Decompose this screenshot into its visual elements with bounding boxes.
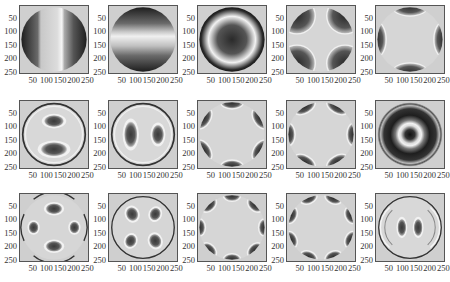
subplot-1: 5010015020025050100150200250: [19, 5, 89, 74]
y-tick-label: 150: [271, 229, 284, 238]
x-tick-label: 100: [218, 76, 231, 85]
y-tick-label: 100: [93, 215, 106, 224]
x-tick-label: 150: [232, 76, 245, 85]
x-tick-label: 150: [410, 76, 423, 85]
x-tick-label: 50: [295, 264, 304, 273]
subplot-5: 5010015020025050100150200250: [375, 5, 445, 74]
y-tick-label: 100: [271, 215, 284, 224]
x-tick-label: 200: [423, 76, 436, 85]
x-tick-label: 50: [384, 171, 393, 180]
x-tick-label: 150: [232, 264, 245, 273]
y-tick-label: 200: [93, 149, 106, 158]
y-tick-label: 150: [360, 41, 373, 50]
x-tick-label: 150: [143, 264, 156, 273]
y-tick-label: 50: [276, 14, 285, 23]
image-plot-two-lobes-horizontal-arcs: [375, 193, 445, 262]
y-tick-label: 50: [187, 109, 196, 118]
x-tick-label: 200: [334, 171, 347, 180]
y-tick-label: 250: [4, 163, 17, 172]
x-tick-label: 100: [218, 264, 231, 273]
y-tick-label: 150: [360, 136, 373, 145]
x-tick-label: 100: [307, 264, 320, 273]
y-tick-label: 250: [271, 68, 284, 77]
x-tick-label: 150: [321, 264, 334, 273]
y-tick-label: 50: [365, 14, 374, 23]
y-tick-label: 200: [182, 149, 195, 158]
x-tick-label: 50: [117, 171, 126, 180]
x-tick-label: 200: [67, 76, 80, 85]
x-tick-label: 50: [206, 171, 215, 180]
x-tick-label: 150: [232, 171, 245, 180]
image-plot-six-lobes-a: [197, 100, 267, 169]
x-tick-label: 250: [259, 171, 272, 180]
x-tick-label: 200: [67, 264, 80, 273]
y-tick-label: 100: [182, 215, 195, 224]
x-tick-label: 250: [81, 264, 94, 273]
y-tick-label: 50: [365, 202, 374, 211]
x-tick-label: 150: [410, 171, 423, 180]
y-tick-label: 200: [271, 54, 284, 63]
x-tick-label: 100: [40, 171, 53, 180]
subplot-12: 5010015020025050100150200250: [108, 193, 178, 262]
x-tick-label: 250: [437, 171, 450, 180]
x-tick-label: 200: [67, 171, 80, 180]
x-tick-label: 150: [143, 171, 156, 180]
y-tick-label: 200: [4, 149, 17, 158]
subplot-9: 5010015020025050100150200250: [286, 100, 356, 169]
y-tick-label: 100: [182, 27, 195, 36]
y-tick-label: 50: [98, 202, 107, 211]
y-tick-label: 150: [93, 229, 106, 238]
image-plot-eight-lobes-b: [286, 193, 356, 262]
y-tick-label: 200: [182, 54, 195, 63]
y-tick-label: 100: [271, 122, 284, 131]
x-tick-label: 100: [307, 171, 320, 180]
image-plot-eight-lobes-a: [197, 193, 267, 262]
y-tick-label: 50: [276, 109, 285, 118]
y-tick-label: 50: [9, 202, 18, 211]
image-plot-six-lobes-b: [286, 100, 356, 169]
image-plot-four-lobes-axial-inner: [19, 193, 89, 262]
y-tick-label: 200: [360, 149, 373, 158]
y-tick-label: 250: [271, 163, 284, 172]
subplot-7: 5010015020025050100150200250: [108, 100, 178, 169]
subplot-8: 5010015020025050100150200250: [197, 100, 267, 169]
image-plot-horizontal-stripe: [108, 5, 178, 74]
y-tick-label: 250: [93, 68, 106, 77]
y-tick-label: 150: [4, 136, 17, 145]
x-tick-label: 100: [40, 76, 53, 85]
y-tick-label: 50: [98, 14, 107, 23]
y-tick-label: 200: [182, 242, 195, 251]
y-tick-label: 200: [93, 54, 106, 63]
y-tick-label: 50: [9, 109, 18, 118]
x-tick-label: 200: [423, 171, 436, 180]
x-tick-label: 200: [245, 76, 258, 85]
x-tick-label: 200: [423, 264, 436, 273]
x-tick-label: 250: [437, 76, 450, 85]
y-tick-label: 150: [182, 229, 195, 238]
subplot-14: 5010015020025050100150200250: [286, 193, 356, 262]
x-tick-label: 50: [295, 171, 304, 180]
x-tick-label: 50: [28, 171, 37, 180]
x-tick-label: 150: [321, 76, 334, 85]
x-tick-label: 250: [81, 171, 94, 180]
y-tick-label: 250: [271, 256, 284, 265]
x-tick-label: 50: [295, 76, 304, 85]
image-plot-two-lobes-vertical: [19, 100, 89, 169]
subplot-13: 5010015020025050100150200250: [197, 193, 267, 262]
y-tick-label: 150: [93, 136, 106, 145]
subplot-10: 5010015020025050100150200250: [375, 100, 445, 169]
y-tick-label: 100: [4, 27, 17, 36]
y-tick-label: 250: [93, 163, 106, 172]
x-tick-label: 200: [245, 171, 258, 180]
image-plot-ring-dark-center: [197, 5, 267, 74]
subplot-6: 5010015020025050100150200250: [19, 100, 89, 169]
x-tick-label: 100: [218, 171, 231, 180]
x-tick-label: 150: [143, 76, 156, 85]
y-tick-label: 250: [182, 163, 195, 172]
image-plot-vertical-stripe: [19, 5, 89, 74]
y-tick-label: 250: [182, 256, 195, 265]
x-tick-label: 100: [396, 76, 409, 85]
y-tick-label: 50: [276, 202, 285, 211]
y-tick-label: 150: [93, 41, 106, 50]
image-plot-four-lobes-diagonal-inner: [108, 193, 178, 262]
